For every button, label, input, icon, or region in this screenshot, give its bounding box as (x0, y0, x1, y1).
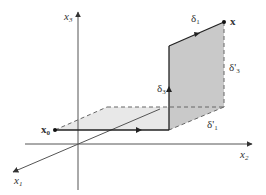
x1-axis-label: x1 (14, 175, 22, 188)
point-x0 (53, 128, 57, 132)
delta3-label: δ3 (157, 83, 166, 96)
delta1-label: δ1 (191, 13, 200, 26)
point-x (222, 20, 226, 24)
x3-axis-label: x3 (64, 11, 72, 24)
delta1-prime-label: δ'1 (207, 119, 218, 132)
x2-axis-label: x2 (240, 149, 248, 162)
delta3-prime-label: δ'3 (229, 62, 240, 75)
vertical-plane (169, 22, 224, 130)
x0-point-label: x0 (41, 124, 50, 137)
diagram-canvas (0, 0, 266, 195)
x-point-label: x (230, 16, 236, 27)
